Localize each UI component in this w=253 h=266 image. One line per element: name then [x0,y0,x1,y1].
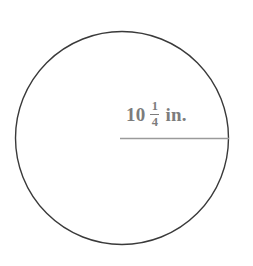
radius-measurement-label: 10 1 4 in. [126,100,187,128]
circle-diagram-svg [0,0,253,266]
measurement-unit: in. [165,105,186,124]
measurement-whole-number: 10 [126,105,145,124]
geometry-figure-canvas: 10 1 4 in. [0,0,253,266]
fraction-numerator: 1 [151,100,159,114]
fraction-denominator: 4 [151,115,159,129]
measurement-fraction: 1 4 [150,100,159,128]
